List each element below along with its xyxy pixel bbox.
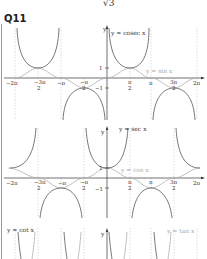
- x-tick-mpi: −π: [57, 80, 66, 86]
- graphs-canvas: y y = cosec x y = sin x 1 −1 −2π −3π 2 −…: [0, 0, 207, 259]
- x-tick-m2pi: −2π: [6, 180, 18, 186]
- tan-label: y = tan x: [166, 227, 195, 235]
- x-tick-2pi: 2π: [193, 180, 200, 186]
- x-tick-pi: π: [149, 80, 153, 86]
- x-tick-3pi2-den: 2: [172, 85, 176, 91]
- cos-label: y = cos x: [120, 166, 149, 174]
- y-tick-m1: −1: [95, 186, 103, 192]
- graph-cot: y y = cot x y = tan x: [6, 226, 197, 259]
- sec-curve: [10, 128, 200, 218]
- x-tick-3pi2-den: 2: [172, 185, 176, 191]
- y-arrow-icon: [106, 228, 108, 232]
- y-axis-label: y: [100, 128, 105, 136]
- x-tick-pi2-den: 2: [128, 85, 132, 91]
- x-tick-pi: π: [149, 179, 153, 185]
- cot-curve: [18, 232, 157, 259]
- asymptotes: [38, 128, 174, 218]
- y-tick-1: 1: [99, 165, 103, 171]
- y-tick-1: 1: [99, 65, 103, 71]
- x-tick-pi2-den: 2: [128, 185, 132, 191]
- x-arrow-icon: [201, 177, 205, 179]
- x-tick-mpi2-den: 2: [82, 185, 86, 191]
- x-tick-m3pi2-den: 2: [37, 185, 41, 191]
- x-tick-m2pi: −2π: [6, 80, 18, 86]
- y-axis-label: y: [100, 230, 105, 238]
- x-arrow-icon: [201, 77, 205, 79]
- y-arrow-icon: [106, 126, 108, 130]
- sin-label: y = sin x: [145, 67, 173, 75]
- x-tick-mpi: −π: [58, 180, 67, 186]
- cosec-label: y = cosec x: [110, 29, 146, 37]
- y-axis-label: y: [102, 25, 107, 33]
- y-tick-m1: −1: [95, 85, 103, 91]
- graph-cosec: y y = cosec x y = sin x 1 −1 −2π −3π 2 −…: [4, 25, 205, 120]
- sec-label: y = sec x: [118, 125, 147, 133]
- cosec-curve: [17, 28, 195, 120]
- graph-sec: y y = sec x y = cos x 1 −1 −2π −3π 2 −π …: [4, 125, 205, 218]
- x-tick-m3pi2-den: 2: [37, 85, 41, 91]
- x-tick-mpi2-den: 2: [82, 85, 86, 91]
- cot-label: y = cot x: [6, 226, 35, 234]
- x-tick-2pi: 2π: [193, 80, 200, 86]
